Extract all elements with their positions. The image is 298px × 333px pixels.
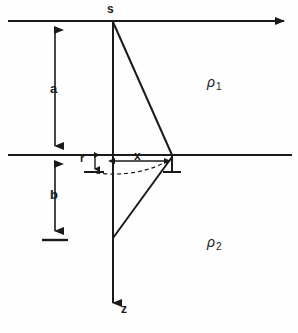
- radius-r-label: r: [80, 153, 84, 164]
- depth-a-label: a: [50, 82, 57, 95]
- diagram-canvas: s a b r x z ρ1 ρ2: [0, 0, 298, 333]
- resistivity-lower-subscript: 2: [216, 241, 222, 252]
- depth-axis-label: z: [121, 303, 127, 315]
- resistivity-lower-symbol: ρ: [207, 234, 215, 250]
- diagram-svg: [0, 0, 298, 333]
- lower-ray: [113, 157, 172, 238]
- resistivity-upper-label: ρ1: [207, 75, 222, 92]
- resistivity-upper-symbol: ρ: [207, 74, 215, 90]
- source-label: s: [107, 3, 114, 15]
- depth-b-label: b: [50, 188, 58, 201]
- resistivity-lower-label: ρ2: [207, 235, 222, 252]
- offset-x-label: x: [134, 150, 141, 162]
- resistivity-upper-subscript: 1: [216, 81, 222, 92]
- upper-ray: [113, 22, 172, 155]
